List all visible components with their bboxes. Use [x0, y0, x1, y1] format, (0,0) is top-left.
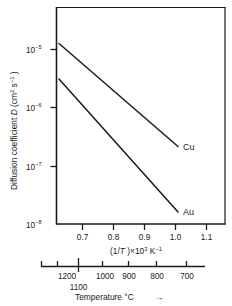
svg-text:(1/T )×103 K−1: (1/T )×103 K−1 [110, 246, 162, 256]
temperature-tick-label-1000: 1000 [96, 272, 115, 281]
y-axis-title-units-close: ) [9, 71, 19, 76]
temperature-tick-label-800: 800 [150, 272, 164, 281]
x-tick-label-0.9: 0.9 [139, 233, 151, 242]
temperature-axis-title: Temperature °C [75, 292, 134, 302]
x-axis-title-mid: )×10 [125, 246, 145, 256]
series-labels-group: Cu Au [183, 142, 195, 217]
y-axis-title: Diffusion coefficient D (cm2 s−1 ) [9, 71, 19, 190]
chart-canvas: 10−5 10−6 10−7 10−8 Diffusion coefficien… [0, 0, 232, 306]
y-axis-ticks [51, 50, 57, 167]
series-label-au: Au [183, 207, 194, 217]
y-tick-label-1e-6: 10−6 [26, 102, 42, 113]
x-axis-tick-labels: 0.7 0.8 0.9 1.0 1.1 [77, 233, 213, 242]
y-axis-title-prefix: Diffusion coefficient [9, 115, 19, 190]
arrow-right-icon: → [155, 292, 163, 302]
temperature-axis: 1200 1100 1000 900 800 700 Temperature °… [41, 258, 205, 302]
plot-frame [56, 7, 226, 225]
series-label-cu: Cu [183, 142, 195, 152]
y-tick-label-1e-8: 10−8 [26, 219, 42, 230]
x-tick-label-1.1: 1.1 [201, 233, 213, 242]
y-axis-title-units-open: (cm [9, 93, 19, 109]
y-axis-tick-labels: 10−5 10−6 10−7 10−8 [26, 44, 42, 231]
series-line-au [59, 79, 178, 212]
series-line-cu [59, 44, 178, 147]
y-axis-title-sup-minus1: −1 [9, 77, 15, 84]
y-tick-label-1e-5: 10−5 [26, 44, 42, 55]
y-tick-label-1e-7: 10−7 [26, 161, 42, 172]
svg-text:Diffusion coefficient D (cm2 s: Diffusion coefficient D (cm2 s−1 ) [9, 71, 19, 190]
temperature-tick-label-900: 900 [122, 272, 136, 281]
data-series-group [59, 44, 178, 213]
x-tick-label-0.8: 0.8 [108, 233, 120, 242]
x-tick-label-0.7: 0.7 [77, 233, 89, 242]
diffusion-coefficient-chart: 10−5 10−6 10−7 10−8 Diffusion coefficien… [0, 0, 232, 306]
x-axis-ticks [83, 224, 207, 230]
x-axis-title: (1/T )×103 K−1 [110, 246, 162, 256]
x-axis-title-unit-sup: −1 [155, 246, 162, 252]
x-tick-label-1.0: 1.0 [170, 233, 182, 242]
temperature-tick-label-1200: 1200 [58, 272, 77, 281]
temperature-tick-label-1100: 1100 [70, 283, 88, 292]
temperature-tick-label-700: 700 [180, 272, 194, 281]
